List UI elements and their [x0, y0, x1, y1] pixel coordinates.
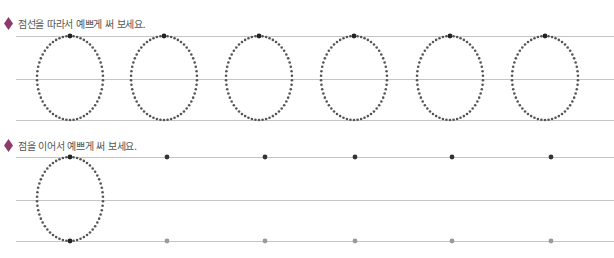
- connect-end-dot-1[interactable]: [165, 239, 170, 244]
- connect-start-dot-2[interactable]: [263, 155, 268, 160]
- connect-start-dot-3[interactable]: [353, 155, 358, 160]
- end-point-dot: [68, 239, 73, 244]
- start-point-dot: [68, 155, 73, 160]
- tracing-oval-3: [225, 34, 294, 122]
- start-point-dot: [162, 34, 167, 39]
- tracing-oval-2: [130, 34, 199, 122]
- connect-start-dot-1[interactable]: [165, 155, 170, 160]
- tracing-oval-4: [320, 34, 389, 122]
- tracing-oval-6: [511, 34, 580, 122]
- connect-end-dot-5[interactable]: [549, 239, 554, 244]
- tracing-oval-1: [36, 34, 105, 122]
- tracing-canvas[interactable]: [0, 0, 614, 258]
- connect-start-dot-4[interactable]: [450, 155, 455, 160]
- connect-end-dot-4[interactable]: [450, 239, 455, 244]
- start-point-dot: [352, 34, 357, 39]
- tracing-oval-5: [416, 34, 485, 122]
- start-point-dot: [543, 34, 548, 39]
- example-oval: [36, 155, 105, 244]
- start-point-dot: [257, 34, 262, 39]
- connect-end-dot-2[interactable]: [263, 239, 268, 244]
- connect-end-dot-3[interactable]: [353, 239, 358, 244]
- start-point-dot: [68, 34, 73, 39]
- start-point-dot: [448, 34, 453, 39]
- connect-start-dot-5[interactable]: [549, 155, 554, 160]
